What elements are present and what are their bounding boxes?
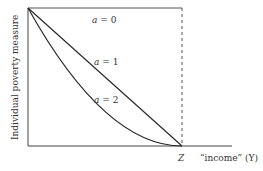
poverty-measure-diagram: a = 0 a = 1 a = 2 Individual poverty mea… bbox=[0, 0, 263, 171]
x-axis-label: “income” (Y) bbox=[200, 153, 258, 163]
label-a1: a = 1 bbox=[94, 57, 118, 67]
curve-a1 bbox=[28, 8, 182, 146]
label-a0: a = 0 bbox=[92, 15, 117, 25]
y-axis-label: Individual poverty measure bbox=[10, 15, 20, 140]
threshold-label: Z bbox=[177, 153, 185, 163]
label-a2: a = 2 bbox=[94, 95, 118, 105]
